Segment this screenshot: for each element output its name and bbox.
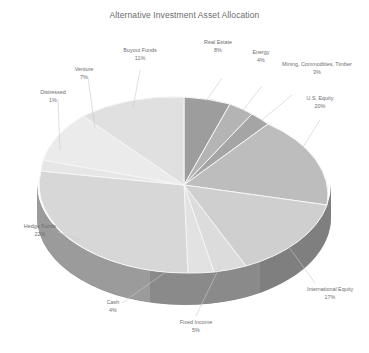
label-pct-buyout-funds: 11% — [112, 54, 168, 62]
label-pct-distressed: 1% — [30, 96, 76, 104]
pie-chart-figure: Alternative Investment Asset Allocation — [0, 0, 369, 353]
slice-label-distressed: Distressed 1% — [30, 88, 76, 105]
label-pct-mining: 3% — [274, 68, 360, 76]
label-pct-intl-equity: 17% — [296, 293, 364, 301]
label-name-real-estate: Real Estate — [204, 39, 232, 45]
slice-label-hedge-funds: Hedge Funds 22% — [16, 222, 64, 239]
label-name-fixed-income: Fixed Income — [180, 319, 212, 325]
label-pct-cash: 4% — [96, 306, 130, 314]
label-name-buyout-funds: Buyout Funds — [123, 47, 156, 53]
slice-label-mining: Mining, Commodities, Timber 3% — [274, 60, 360, 77]
slice-label-real-estate: Real Estate 8% — [196, 38, 240, 55]
slice-label-intl-equity: International Equity 17% — [296, 285, 364, 302]
slice-label-venture: Venture 7% — [64, 65, 104, 82]
slice-label-fixed-income: Fixed Income 5% — [168, 318, 224, 335]
label-pct-fixed-income: 5% — [168, 326, 224, 334]
slice-label-cash: Cash 4% — [96, 298, 130, 315]
label-name-hedge-funds: Hedge Funds — [24, 223, 56, 229]
slice-label-us-equity: U.S. Equity 20% — [296, 94, 344, 111]
label-pct-real-estate: 8% — [196, 46, 240, 54]
label-pct-us-equity: 20% — [296, 102, 344, 110]
slice-label-buyout-funds: Buyout Funds 11% — [112, 46, 168, 63]
label-name-us-equity: U.S. Equity — [307, 95, 334, 101]
label-name-mining: Mining, Commodities, Timber — [282, 61, 352, 67]
label-pct-hedge-funds: 22% — [16, 230, 64, 238]
label-name-cash: Cash — [107, 299, 120, 305]
pie-top-face — [39, 97, 328, 273]
label-name-venture: Venture — [75, 66, 94, 72]
label-name-energy: Energy — [252, 49, 269, 55]
label-name-distressed: Distressed — [40, 89, 65, 95]
label-name-intl-equity: International Equity — [307, 286, 353, 292]
label-pct-venture: 7% — [64, 73, 104, 81]
